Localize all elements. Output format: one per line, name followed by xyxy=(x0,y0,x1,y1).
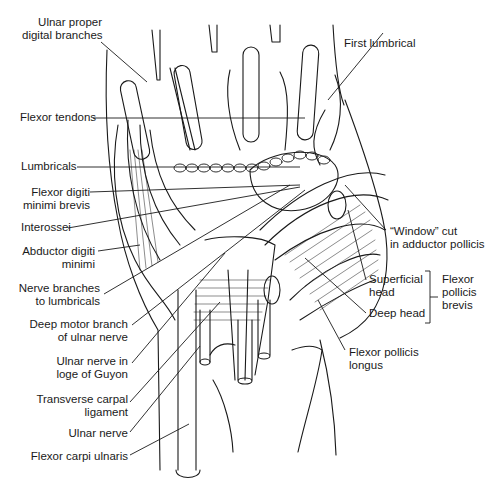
label-abductor-digiti-minimi: Abductor digiti minimi xyxy=(10,245,95,271)
label-line: head xyxy=(369,286,423,299)
label-deep-motor-branch: Deep motor branch of ulnar nerve xyxy=(10,318,128,344)
label-line: Flexor tendons xyxy=(20,111,96,124)
label-line: Flexor xyxy=(442,273,477,286)
label-line: digital branches xyxy=(22,29,102,42)
label-line: Interossei xyxy=(21,221,71,234)
label-line: longus xyxy=(349,359,419,372)
label-line: Deep head xyxy=(369,307,425,320)
label-line: Nerve branches xyxy=(10,282,100,295)
label-line: First lumbrical xyxy=(344,37,416,50)
label-line: brevis xyxy=(442,299,477,312)
label-flexor-tendons: Flexor tendons xyxy=(20,111,96,124)
label-line: to lumbricals xyxy=(10,295,100,308)
label-line: Lumbricals xyxy=(21,160,77,173)
label-nerve-branches-to-lumbricals: Nerve branches to lumbricals xyxy=(10,282,100,308)
label-flexor-pollicis-longus: Flexor pollicis longus xyxy=(349,346,419,372)
label-ulnar-nerve-guyon: Ulnar nerve in loge of Guyon xyxy=(10,355,128,381)
label-flexor-carpi-ulnaris: Flexor carpi ulnaris xyxy=(10,450,128,463)
label-first-lumbrical: First lumbrical xyxy=(344,37,416,50)
label-deep-head: Deep head xyxy=(369,307,425,320)
label-interossei: Interossei xyxy=(21,221,71,234)
label-line: Transverse carpal xyxy=(10,393,128,406)
label-transverse-carpal-ligament: Transverse carpal ligament xyxy=(10,393,128,419)
label-line: “Window” cut xyxy=(390,225,485,238)
label-line: Ulnar nerve xyxy=(10,427,128,440)
label-line: of ulnar nerve xyxy=(10,331,128,344)
label-line: Deep motor branch xyxy=(10,318,128,331)
label-ulnar-proper-digital-branches: Ulnar proper digital branches xyxy=(22,16,102,42)
label-lumbricals: Lumbricals xyxy=(21,160,77,173)
label-ulnar-nerve: Ulnar nerve xyxy=(10,427,128,440)
label-line: Abductor digiti xyxy=(10,245,95,258)
label-line: Superficial xyxy=(369,273,423,286)
label-line: pollicis xyxy=(442,286,477,299)
label-flexor-pollicis-brevis: Flexor pollicis brevis xyxy=(442,273,477,312)
label-line: loge of Guyon xyxy=(10,368,128,381)
label-window-cut-adductor-pollicis: “Window” cut in adductor pollicis xyxy=(390,225,485,251)
label-line: in adductor pollicis xyxy=(390,238,485,251)
label-flexor-digiti-minimi-brevis: Flexor digiti minimi brevis xyxy=(20,186,90,212)
label-line: Ulnar nerve in xyxy=(10,355,128,368)
label-line: Ulnar proper xyxy=(22,16,102,29)
label-line: Flexor digiti xyxy=(20,186,90,199)
label-line: minimi brevis xyxy=(20,199,90,212)
label-superficial-head: Superficial head xyxy=(369,273,423,299)
label-line: ligament xyxy=(10,406,128,419)
label-line: Flexor pollicis xyxy=(349,346,419,359)
label-line: Flexor carpi ulnaris xyxy=(10,450,128,463)
label-line: minimi xyxy=(10,258,95,271)
